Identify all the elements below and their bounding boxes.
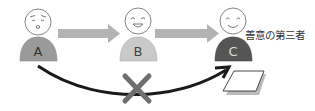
arrow-b-to-c [155,24,219,43]
cross-icon [125,76,149,101]
person-c-head [220,8,246,34]
person-b-head [125,8,151,34]
third-party-label: 善意の第三者 [245,29,305,41]
arrow-a-to-b [58,24,120,43]
person-a-head [25,9,51,35]
person-b: B [120,8,157,61]
transfer-diagram: A B C 善意の第三者 [0,0,315,111]
person-a: A [20,9,57,61]
person-c-label: C [228,44,237,59]
person-a-label: A [34,44,43,59]
person-b-label: B [134,44,143,59]
document-icon [223,71,266,95]
